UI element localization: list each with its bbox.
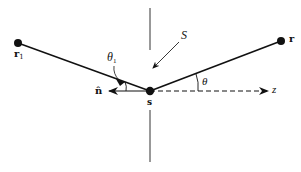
label-theta1: θ1: [107, 51, 116, 65]
label-surface: S: [181, 29, 187, 41]
diffraction-geometry-diagram: [0, 0, 301, 172]
point-r1: [14, 39, 22, 47]
label-surface-text: S: [181, 28, 187, 42]
theta1-angle-arc: [125, 82, 126, 91]
point-s: [146, 87, 154, 95]
label-theta1-subscript: 1: [113, 57, 117, 65]
label-theta: θ: [202, 76, 207, 87]
label-r1-subscript: 1: [19, 53, 23, 61]
surface-pointer-arrow: [153, 42, 179, 68]
ray-r1-to-s: [18, 43, 150, 91]
point-r: [277, 37, 285, 45]
theta-angle-arc: [196, 74, 198, 91]
label-normal-text: n̂: [95, 85, 102, 96]
label-normal: n̂: [95, 86, 102, 96]
label-s: s: [147, 98, 152, 107]
label-s-text: s: [147, 97, 152, 107]
ray-s-to-r: [150, 41, 281, 91]
label-z: z: [272, 84, 276, 95]
label-r-text: r: [289, 33, 294, 44]
label-z-text: z: [272, 83, 276, 95]
label-r: r: [289, 34, 294, 44]
label-theta-text: θ: [202, 75, 207, 87]
label-r1: r1: [14, 49, 24, 61]
